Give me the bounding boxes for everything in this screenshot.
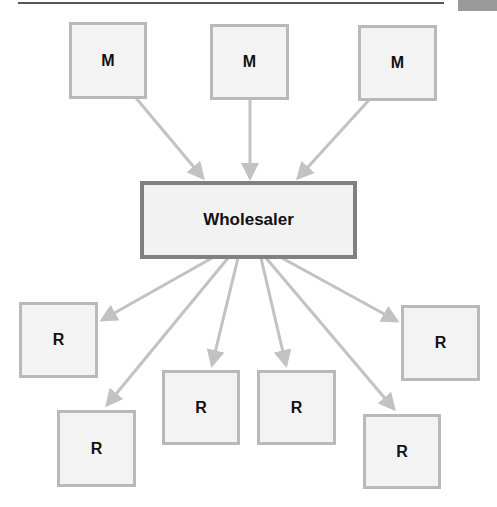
node-label: M <box>391 54 404 72</box>
node-label: R <box>53 331 65 349</box>
node-label: R <box>291 399 303 417</box>
retailer-node-6: R <box>401 305 480 381</box>
manufacturer-node-2: M <box>210 24 289 100</box>
retailer-node-5: R <box>363 414 441 489</box>
arrow-wholesaler-r6 <box>282 258 397 321</box>
retailer-node-1: R <box>19 302 98 378</box>
retailer-node-4: R <box>257 370 336 445</box>
node-label: R <box>435 334 447 352</box>
node-label: R <box>195 399 207 417</box>
arrow-m1-wholesaler <box>136 98 203 178</box>
wholesaler-node: Wholesaler <box>140 181 357 259</box>
node-label: M <box>243 53 256 71</box>
arrow-wholesaler-r4 <box>261 258 286 365</box>
retailer-node-3: R <box>162 370 240 445</box>
arrow-m3-wholesaler <box>298 100 369 178</box>
node-label: R <box>91 440 103 458</box>
node-label: Wholesaler <box>203 210 294 230</box>
manufacturer-node-3: M <box>358 25 437 101</box>
arrow-wholesaler-r1 <box>102 258 212 320</box>
node-label: M <box>101 52 114 70</box>
node-label: R <box>396 443 408 461</box>
retailer-node-2: R <box>57 410 136 487</box>
manufacturer-node-1: M <box>69 22 147 99</box>
